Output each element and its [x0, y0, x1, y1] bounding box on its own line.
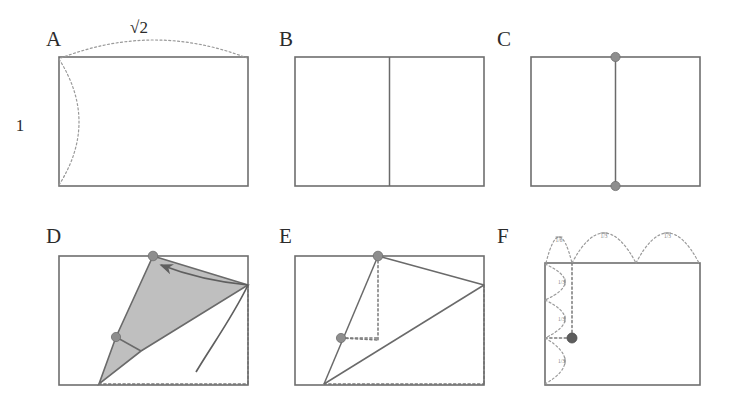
edge-midpoint-dot [111, 332, 120, 341]
left-dimension: 1 [16, 116, 25, 135]
panel-label-d: D [46, 224, 61, 248]
top-brace-2-label: 1/3 [601, 233, 608, 239]
top-dimension: √2 [130, 18, 148, 37]
panel-label-e: E [279, 224, 292, 248]
panel-label-a: A [46, 27, 62, 51]
division-point-dot [567, 333, 577, 343]
top-midpoint-dot [373, 251, 383, 261]
top-midpoint-dot [611, 52, 620, 61]
top-midpoint-dot [148, 251, 158, 261]
figure-background [0, 0, 729, 409]
figure-root: √21ABCDE1/61/31/31/31/31/3F [0, 0, 729, 409]
left-brace-3-label: 1/3 [558, 358, 565, 364]
folding-construction-figure: √21ABCDE1/61/31/31/31/31/3F [0, 0, 729, 409]
panel-label-c: C [497, 27, 511, 51]
left-brace-2-label: 1/3 [558, 316, 565, 322]
panel-label-f: F [497, 224, 509, 248]
left-brace-1-label: 1/3 [558, 279, 565, 285]
panel-label-b: B [279, 27, 293, 51]
top-brace-1-label: 1/6 [556, 237, 563, 243]
division-point-dot [336, 333, 345, 342]
bottom-midpoint-dot [611, 181, 620, 190]
top-brace-3-label: 1/3 [664, 233, 671, 239]
